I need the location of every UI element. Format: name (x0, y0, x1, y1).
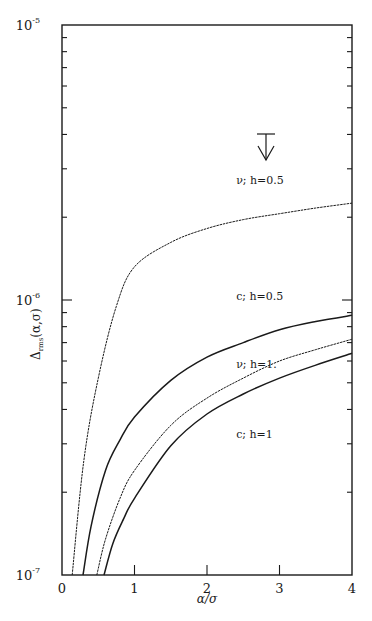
y-tick-label: 10-7 (16, 566, 40, 583)
y-axis-title: Δrms(α,σ) (29, 308, 45, 360)
x-tick-label: 4 (348, 581, 356, 596)
x-tick-label: 3 (275, 581, 283, 596)
curve-label: c; h=1 (236, 428, 273, 441)
curve-line (104, 353, 352, 575)
curve-line (83, 315, 352, 575)
data-curves (72, 203, 352, 575)
y-tick-label: 10-6 (16, 291, 40, 308)
svg-text:Δrms(α,σ): Δrms(α,σ) (29, 308, 45, 360)
curve-label: c; h=0.5 (236, 290, 283, 303)
plot-frame (62, 25, 352, 575)
curve-label: ν; h=1. (236, 358, 277, 371)
y-tick-label: 10-5 (16, 16, 40, 33)
x-axis-title: α/σ (197, 592, 218, 606)
x-tick-label: 1 (130, 581, 138, 596)
axis-tick-labels: 0123410-510-610-7 (16, 16, 356, 596)
curve-line (97, 339, 352, 575)
chart: 0123410-510-610-7 ν; h=0.5c; h=0.5ν; h=1… (0, 0, 372, 621)
x-tick-label: 0 (58, 581, 66, 596)
upper-limit-arrow-icon (257, 134, 275, 160)
curve-line (72, 203, 352, 575)
curve-label: ν; h=0.5 (236, 174, 284, 187)
axis-ticks (62, 38, 352, 575)
